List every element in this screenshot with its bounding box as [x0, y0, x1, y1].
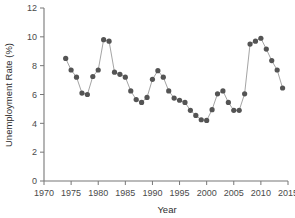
data-point: [209, 107, 214, 112]
data-point: [90, 74, 95, 79]
data-point: [275, 67, 280, 72]
chart-figure: 024681012 197019751980198519901995200020…: [0, 0, 295, 218]
x-tick-label: 2000: [197, 188, 217, 198]
data-point: [247, 41, 252, 46]
data-point: [220, 88, 225, 93]
data-point: [63, 56, 68, 61]
data-point: [182, 100, 187, 105]
data-point: [253, 39, 258, 44]
data-point: [226, 100, 231, 105]
x-tick-label: 2010: [251, 188, 271, 198]
x-axis-title: Year: [157, 204, 176, 215]
y-tick-label: 2: [32, 147, 37, 157]
data-point: [96, 67, 101, 72]
y-tick-label: 12: [27, 3, 37, 13]
x-tick-label: 1985: [115, 188, 135, 198]
data-point: [242, 91, 247, 96]
y-tick-label: 8: [32, 61, 37, 71]
data-point: [155, 68, 160, 73]
data-point: [139, 100, 144, 105]
data-point: [258, 36, 263, 41]
data-point: [106, 39, 111, 44]
data-point: [69, 67, 74, 72]
y-tick-label: 0: [32, 176, 37, 186]
x-tick-label: 1975: [61, 188, 81, 198]
data-point: [193, 113, 198, 118]
data-point: [161, 75, 166, 80]
data-point: [215, 91, 220, 96]
data-point: [101, 37, 106, 42]
data-point: [269, 58, 274, 63]
y-axis-title: Unemployment Rate (%): [3, 43, 14, 147]
y-tick-label: 10: [27, 32, 37, 42]
series-line: [66, 38, 283, 120]
data-series-unemployment-rate: [63, 36, 285, 123]
data-point: [150, 77, 155, 82]
x-tick-label: 1980: [88, 188, 108, 198]
data-point: [237, 108, 242, 113]
data-point: [74, 75, 79, 80]
unemployment-rate-line-chart: 024681012 197019751980198519901995200020…: [0, 0, 295, 218]
data-point: [166, 88, 171, 93]
data-point: [117, 72, 122, 77]
data-point: [112, 70, 117, 75]
x-tick-label: 2015: [278, 188, 295, 198]
data-point: [231, 108, 236, 113]
x-tick-label: 2005: [224, 188, 244, 198]
y-tick-label: 6: [32, 90, 37, 100]
x-tick-label: 1995: [170, 188, 190, 198]
data-point: [204, 118, 209, 123]
data-point: [188, 108, 193, 113]
data-point: [280, 85, 285, 90]
data-point: [199, 117, 204, 122]
x-tick-label: 1990: [142, 188, 162, 198]
data-point: [85, 92, 90, 97]
x-tick-label: 1970: [34, 188, 54, 198]
data-point: [172, 96, 177, 101]
data-point: [123, 75, 128, 80]
data-point: [134, 97, 139, 102]
data-point: [79, 90, 84, 95]
data-point: [177, 98, 182, 103]
data-point: [144, 95, 149, 100]
y-tick-label: 4: [32, 119, 37, 129]
data-point: [128, 88, 133, 93]
data-point: [264, 46, 269, 51]
x-axis-tick-labels: 1970197519801985199019952000200520102015: [34, 181, 295, 198]
y-axis-tick-labels: 024681012: [27, 3, 44, 186]
